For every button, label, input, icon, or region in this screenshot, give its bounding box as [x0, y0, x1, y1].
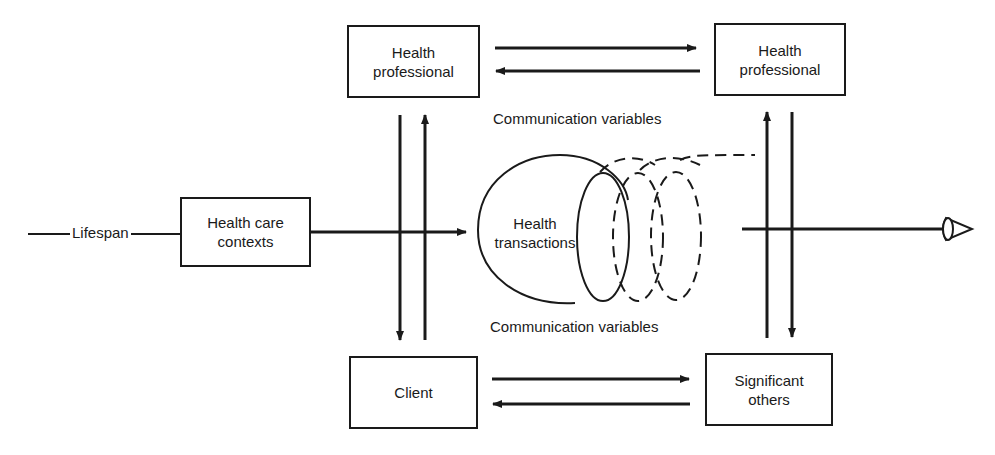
health-professional-left-line2: professional: [373, 62, 454, 81]
significant-others-box: Significant others: [705, 353, 833, 426]
health-care-contexts-box: Health care contexts: [180, 197, 311, 267]
health-professional-left-line1: Health: [373, 43, 454, 62]
health-care-contexts-line2: contexts: [207, 232, 284, 251]
communication-variables-bottom: Communication variables: [490, 318, 658, 335]
lifespan-label: Lifespan: [70, 224, 131, 241]
significant-others-line2: others: [734, 390, 803, 409]
eye-icon: [943, 218, 972, 240]
significant-others-line1: Significant: [734, 371, 803, 390]
health-professional-right-line1: Health: [740, 41, 821, 60]
health-transactions-line2: transactions: [485, 233, 585, 252]
health-transactions-label: Health transactions: [485, 214, 585, 252]
client-box: Client: [349, 356, 478, 429]
client-label: Client: [394, 383, 432, 402]
health-transactions-line1: Health: [485, 214, 585, 233]
health-professional-left-box: Health professional: [347, 25, 480, 98]
health-care-contexts-line1: Health care: [207, 213, 284, 232]
health-professional-right-box: Health professional: [714, 23, 846, 96]
health-professional-right-line2: professional: [740, 60, 821, 79]
communication-variables-top: Communication variables: [493, 110, 661, 127]
